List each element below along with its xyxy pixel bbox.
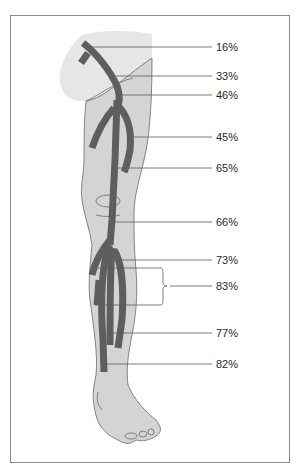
label-73: 73% (216, 254, 238, 266)
vein-calf-2 (110, 248, 112, 345)
label-46: 46% (216, 89, 238, 101)
leg-outline (81, 58, 160, 443)
label-45: 45% (216, 131, 238, 143)
label-83: 83% (216, 280, 238, 292)
label-65: 65% (216, 162, 238, 174)
leg-vein-diagram (0, 0, 301, 470)
label-66: 66% (216, 216, 238, 228)
bracket (160, 268, 167, 305)
label-82: 82% (216, 358, 238, 370)
vein-calf-4 (96, 280, 98, 305)
label-16: 16% (216, 41, 238, 53)
label-77: 77% (216, 327, 238, 339)
label-33: 33% (216, 70, 238, 82)
